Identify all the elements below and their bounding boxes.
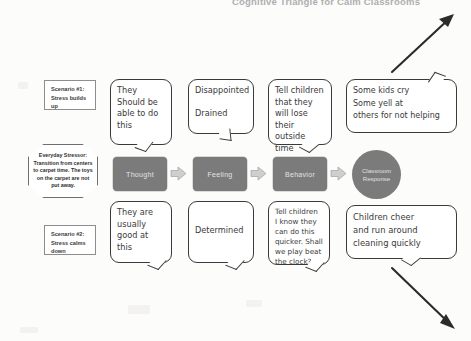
bubble-text: Determined — [195, 225, 247, 237]
right-block-arrow-icon — [250, 165, 267, 182]
bubble-classroom-response-lower: Children cheer and run around cleaning q… — [346, 205, 457, 259]
bubble-thought-lower: They are usually good at this — [110, 201, 172, 263]
process-step-label: Feeling — [207, 171, 232, 178]
process-step-feeling: Feeling — [193, 157, 247, 191]
scenario-1-title: Scenario #1: — [51, 86, 84, 92]
stressor-body: Transition from centers to carpet time. … — [33, 160, 92, 188]
process-step-label: Classroom Response — [352, 167, 401, 183]
process-step-label: Thought — [126, 171, 154, 178]
bubble-tail — [401, 252, 421, 266]
bubble-text: They Should be able to do this — [117, 85, 165, 131]
bubble-text: Some kids cry Some yell at others for no… — [353, 85, 450, 123]
scan-smudge — [20, 327, 38, 333]
bubble-text: Children cheer and run around cleaning q… — [353, 211, 450, 250]
bubble-classroom-response-upper: Some kids cry Some yell at others for no… — [346, 79, 457, 133]
scan-smudge — [246, 300, 262, 307]
bubble-tail — [225, 256, 245, 270]
right-block-arrow-icon — [170, 165, 187, 182]
bubble-feeling-upper: Disappointed Drained — [188, 79, 254, 134]
bubble-text: They are usually good at this — [117, 207, 165, 253]
process-step-classroom-response: Classroom Response — [352, 150, 401, 199]
scenario-2-box: Scenario #2: Stress calms down — [44, 225, 96, 255]
scan-smudge — [128, 305, 150, 314]
diagram-canvas: Cognitive Triangle for Calm Classrooms S… — [0, 0, 471, 341]
stressor-title: Everyday Stressor: — [33, 152, 93, 159]
diagonal-arrow-down-right-icon — [388, 264, 470, 340]
bubble-feeling-lower: Determined — [188, 201, 254, 263]
process-step-thought: Thought — [113, 157, 167, 191]
bubble-tail — [147, 256, 167, 270]
bubble-tail — [134, 138, 153, 152]
bubble-thought-upper: They Should be able to do this — [110, 79, 172, 145]
bubble-behavior-upper: Tell children that they will lose their … — [268, 79, 332, 145]
right-block-arrow-icon — [330, 165, 347, 182]
bubble-text: Disappointed Drained — [195, 85, 247, 120]
scenario-1-body: Stress builds up — [51, 95, 86, 110]
bubble-behavior-lower: Tell children I know they can do this qu… — [268, 201, 330, 265]
scan-smudge — [18, 82, 28, 89]
diagonal-arrow-up-right-icon — [388, 2, 470, 74]
bubble-tail — [218, 127, 231, 141]
process-step-behavior: Behavior — [273, 157, 327, 191]
scenario-1-box: Scenario #1: Stress builds up — [44, 80, 96, 110]
scenario-2-title: Scenario #2: — [51, 231, 84, 237]
scenario-2-body: Stress calms down — [51, 240, 86, 255]
process-step-label: Behavior — [285, 171, 315, 178]
everyday-stressor-octagon: Everyday Stressor: Transition from cente… — [28, 144, 98, 198]
page-title: Cognitive Triangle for Calm Classrooms — [232, 0, 437, 7]
